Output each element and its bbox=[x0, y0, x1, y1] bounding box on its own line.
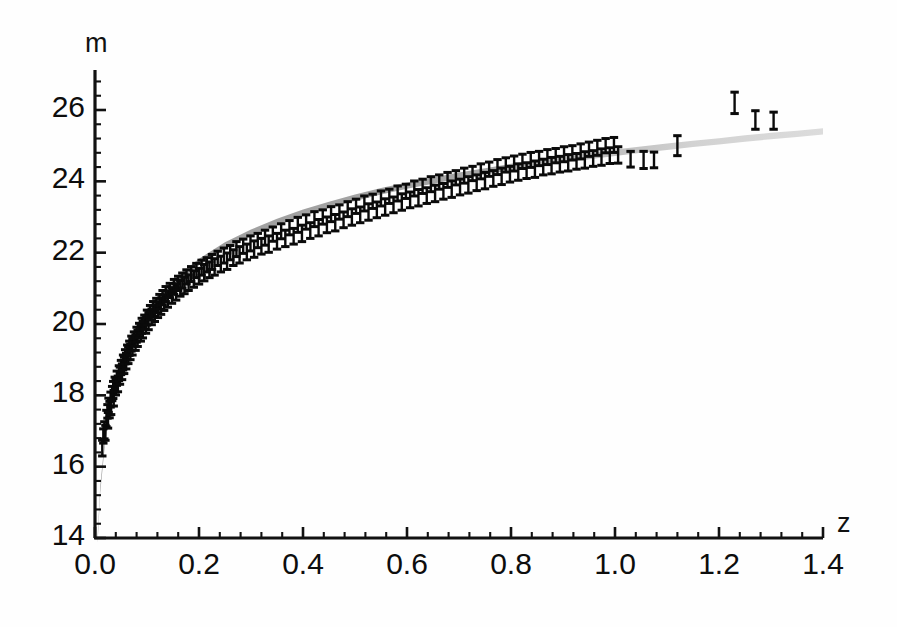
errorbar-point bbox=[439, 183, 447, 199]
x-axis-title: z bbox=[837, 508, 851, 539]
x-tick-label: 0.0 bbox=[55, 547, 135, 581]
x-tick-label: 0.8 bbox=[471, 547, 551, 581]
x-tick-label: 0.2 bbox=[159, 547, 239, 581]
plot-canvas bbox=[0, 0, 897, 627]
errorbar-point bbox=[423, 188, 431, 204]
y-tick-label: 16 bbox=[33, 447, 85, 481]
y-tick-label: 22 bbox=[33, 233, 85, 267]
y-tick-label: 26 bbox=[33, 90, 85, 124]
x-tick-label: 0.4 bbox=[263, 547, 343, 581]
x-tick-label: 1.0 bbox=[575, 547, 655, 581]
x-tick-label: 1.4 bbox=[783, 547, 863, 581]
errorbar-point bbox=[650, 152, 658, 168]
x-tick-label: 1.2 bbox=[679, 547, 759, 581]
errorbar-point bbox=[639, 151, 647, 168]
y-tick-label: 18 bbox=[33, 375, 85, 409]
y-axis-title: m bbox=[85, 28, 108, 59]
y-tick-label: 24 bbox=[33, 161, 85, 195]
errorbar-point bbox=[730, 92, 738, 113]
x-tick-label: 0.6 bbox=[367, 547, 447, 581]
errorbar-point bbox=[769, 112, 777, 129]
errorbar-point bbox=[456, 179, 464, 195]
hubble-diagram-figure: m z 0.00.20.40.60.81.01.21.4141618202224… bbox=[0, 0, 897, 627]
y-tick-label: 14 bbox=[33, 518, 85, 552]
y-tick-label: 20 bbox=[33, 304, 85, 338]
errorbar-point bbox=[751, 111, 759, 130]
errorbar-point bbox=[472, 175, 480, 191]
